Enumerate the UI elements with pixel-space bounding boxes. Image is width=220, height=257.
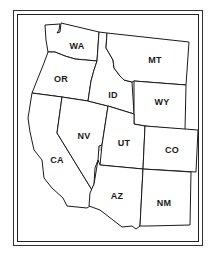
state-label-nm: NM [157, 198, 172, 208]
state-label-nv: NV [77, 131, 90, 141]
state-label-ca: CA [50, 155, 64, 165]
state-label-or: OR [54, 74, 68, 84]
state-label-wy: WY [154, 97, 169, 107]
state-label-wa: WA [69, 41, 84, 51]
state-label-ut: UT [118, 138, 131, 148]
western-us-map [0, 0, 220, 257]
state-label-co: CO [165, 145, 179, 155]
state-label-az: AZ [111, 191, 124, 201]
state-label-id: ID [108, 90, 118, 100]
state-label-mt: MT [148, 55, 162, 65]
